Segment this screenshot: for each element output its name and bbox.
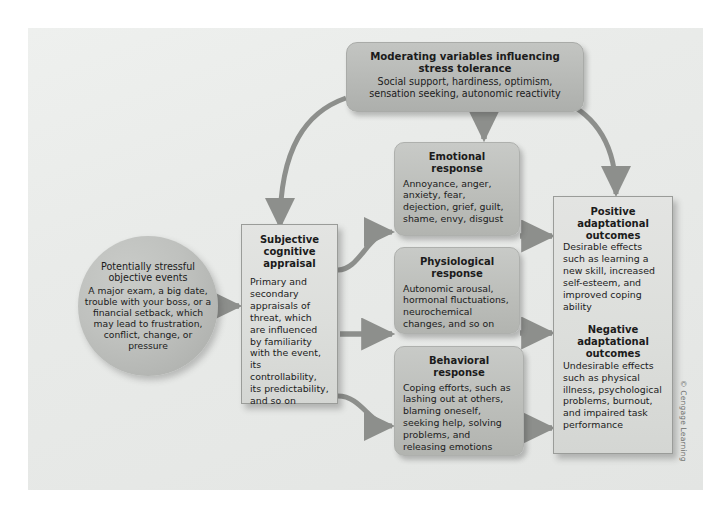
moderating-body: Social support, hardiness, optimism, sen…: [355, 76, 575, 99]
appraisal-title: Subjective cognitive appraisal: [250, 234, 329, 269]
copyright-notice: © Cengage Learning: [679, 380, 688, 462]
node-emotional-response: Emotional response Annoyance, anger, anx…: [394, 142, 520, 236]
emotional-body: Annoyance, anger, anxiety, fear, dejecti…: [403, 178, 511, 225]
node-physiological-response: Physiological response Autonomic arousal…: [394, 247, 520, 334]
node-subjective-appraisal: Subjective cognitive appraisal Primary a…: [241, 224, 338, 404]
negative-outcomes-body: Undesirable effects such as physical ill…: [563, 360, 663, 431]
negative-outcomes-title: Negative adaptational outcomes: [563, 324, 663, 359]
arrow-moderating-to-outcomes: [561, 100, 616, 194]
behavioral-body: Coping efforts, such as lashing out at o…: [403, 382, 515, 453]
arrow-moderating-to-appraisal: [280, 98, 346, 226]
node-behavioral-response: Behavioral response Coping efforts, such…: [394, 346, 524, 456]
node-stressful-events: Potentially stressful objective events A…: [78, 236, 218, 376]
arrow-appraisal-to-behavioral: [338, 396, 392, 426]
positive-outcomes-title: Positive adaptational outcomes: [563, 206, 663, 241]
appraisal-body: Primary and secondary appraisals of thre…: [250, 276, 329, 406]
physiological-body: Autonomic arousal, hormonal fluctuations…: [403, 283, 511, 330]
emotional-title: Emotional response: [403, 151, 511, 175]
positive-outcomes-body: Desirable effects such as learning a new…: [563, 241, 663, 312]
node-moderating-variables: Moderating variables influencing stress …: [346, 42, 584, 112]
arrow-appraisal-to-emotional: [338, 232, 392, 270]
figure-canvas: Moderating variables influencing stress …: [28, 28, 703, 490]
stressful-events-title: Potentially stressful objective events: [84, 261, 212, 284]
behavioral-title: Behavioral response: [403, 355, 515, 379]
stressful-events-body: A major exam, a big date, trouble with y…: [84, 285, 212, 351]
physiological-title: Physiological response: [403, 256, 511, 280]
moderating-title: Moderating variables influencing stress …: [355, 51, 575, 74]
node-adaptational-outcomes: Positive adaptational outcomes Desirable…: [553, 196, 673, 454]
